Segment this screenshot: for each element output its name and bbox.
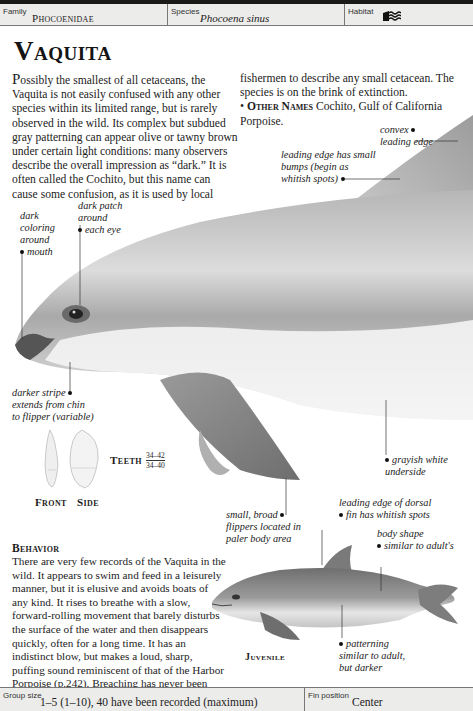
pointer-dot [341, 177, 345, 181]
intro-column-2: fishermen to describe any small cetacean… [240, 72, 465, 129]
intro-text-1: ossibly the smallest of all cetaceans, t… [12, 74, 238, 201]
species-cell: Species Phocoena sinus [168, 4, 345, 26]
annotation-flippers: small, broad flippers located in paler b… [226, 509, 316, 545]
group-size-label: Group size [3, 691, 42, 700]
header-bar: Family Phocoenidae Species Phocoena sinu… [0, 4, 473, 26]
group-size-value: 1–5 (1–10), 40 have been recorded (maxim… [40, 696, 257, 708]
annotation-dorsal-spots: leading edge of dorsal fin has whitish s… [339, 497, 473, 521]
annotation-body-shape: body shape similar to adult's [377, 528, 473, 552]
page-title: Vaquita [14, 36, 112, 67]
behavior-heading: Behavior [12, 541, 227, 555]
pointer-dot [68, 391, 72, 395]
fin-position-cell: Fin position Center [305, 688, 473, 711]
pointer-dot [339, 642, 343, 646]
habitat-cell: Habitat [345, 4, 473, 26]
habitat-label: Habitat [348, 7, 373, 16]
teeth-label: Teeth [110, 454, 142, 466]
fin-position-label: Fin position [308, 691, 349, 700]
species-label: Species [171, 7, 199, 16]
juvenile-label: Juvenile [245, 651, 285, 662]
annotation-darker-stripe: darker stripe extends from chin to flipp… [12, 387, 122, 423]
annotation-eye-patch: dark patch around each eye [78, 200, 138, 236]
family-cell: Family Phocoenidae [0, 4, 168, 26]
coastal-water-icon [383, 11, 401, 21]
behavior-section: Behavior There are very few records of t… [12, 541, 227, 705]
pointer-dot [411, 128, 415, 132]
tooth-front-label: Front [35, 496, 67, 508]
pointer-dot [78, 228, 82, 232]
species-value: Phocoena sinus [200, 12, 269, 24]
annotation-leading-bumps: leading edge has small bumps (begin as w… [281, 149, 401, 185]
annotation-dark-mouth: dark coloring around mouth [20, 210, 70, 258]
lower-teeth-count: 34–40 [146, 461, 165, 470]
pointer-dot [385, 458, 389, 462]
other-names-label: Other Names [247, 100, 313, 113]
pointer-dot [20, 250, 24, 254]
behavior-text: There are very few records of the Vaquit… [12, 555, 227, 705]
upper-teeth-count: 34–42 [146, 451, 165, 461]
fin-position-value: Center [352, 696, 383, 708]
annotation-patterning: patterning similar to adult, but darker [339, 638, 429, 674]
teeth-count: 34–42 34–40 [146, 451, 165, 470]
bullet: • [240, 100, 244, 113]
intro-text-2: fishermen to describe any small cetacean… [240, 72, 454, 99]
pointer-dot [377, 544, 381, 548]
pointer-dot [280, 513, 284, 517]
family-label: Family [3, 7, 27, 16]
family-value: Phocoenidae [32, 12, 94, 24]
annotation-underside: grayish white underside [385, 454, 470, 478]
tooth-side-label: Side [77, 496, 99, 508]
footer-bar: Group size 1–5 (1–10), 40 have been reco… [0, 687, 473, 711]
pointer-dot [339, 513, 343, 517]
intro-column-1: Possibly the smallest of all cetaceans, … [12, 72, 238, 202]
annotation-convex-edge: convex leading edge [380, 124, 460, 148]
group-size-cell: Group size 1–5 (1–10), 40 have been reco… [0, 688, 305, 711]
